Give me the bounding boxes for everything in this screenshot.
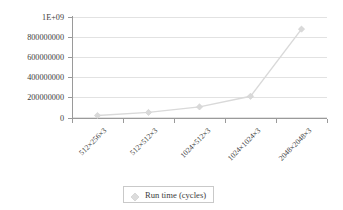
chart-legend: Run time (cycles) [123, 186, 214, 203]
run-time-line-chart: 1E+09 800000000 600000000 400000000 2000… [0, 0, 343, 210]
series-markers-run-time [94, 26, 304, 119]
legend-label-run-time: Run time (cycles) [145, 190, 206, 200]
data-point-0 [94, 112, 100, 118]
diamond-marker-icon [129, 189, 141, 201]
data-point-2 [196, 104, 202, 110]
series-line-run-time [98, 29, 302, 115]
data-point-1 [145, 109, 151, 115]
series-layer [0, 0, 343, 210]
